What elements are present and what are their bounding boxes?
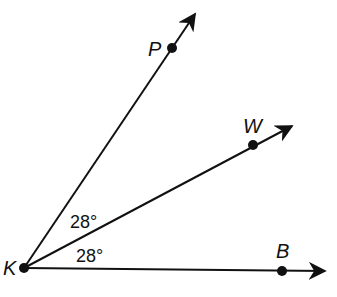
point-label-b: B xyxy=(276,240,289,262)
point-p xyxy=(167,43,177,53)
point-label-w: W xyxy=(243,115,264,137)
angle-label-pkw: 28° xyxy=(70,212,97,232)
point-b xyxy=(277,266,287,276)
vertex-label-k: K xyxy=(3,257,18,279)
vertex-point-k xyxy=(19,263,29,273)
point-label-p: P xyxy=(148,38,162,60)
point-w xyxy=(248,140,258,150)
angle-diagram: K P W B 28° 28° xyxy=(0,0,337,297)
angle-label-wkb: 28° xyxy=(76,246,103,266)
